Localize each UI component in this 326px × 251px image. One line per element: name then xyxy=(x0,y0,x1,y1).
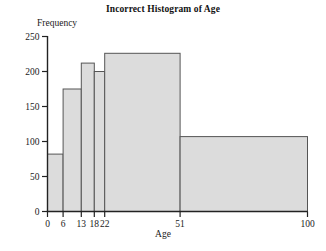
x-tick-label: 51 xyxy=(175,219,185,229)
y-tick-label: 150 xyxy=(25,102,40,112)
x-tick-label: 0 xyxy=(45,219,50,229)
x-tick-group: 0613182251100 xyxy=(45,212,315,229)
x-tick-label: 100 xyxy=(300,219,315,229)
y-tick-group: 050100150200250 xyxy=(25,32,47,217)
histogram-bar xyxy=(48,154,64,211)
y-tick-label: 200 xyxy=(25,67,40,77)
histogram-bar xyxy=(105,53,180,211)
histogram-bar xyxy=(180,137,307,212)
x-axis-label: Age xyxy=(0,229,326,239)
y-tick-label: 100 xyxy=(25,137,40,147)
histogram-figure: Incorrect Histogram of Age Frequency 050… xyxy=(0,0,326,251)
x-tick-label: 18 xyxy=(90,219,100,229)
x-tick-label: 6 xyxy=(61,219,66,229)
y-tick-label: 0 xyxy=(35,207,40,217)
histogram-bar xyxy=(63,89,81,212)
plot-area: 050100150200250 0613182251100 xyxy=(0,0,326,251)
histogram-bar xyxy=(81,63,94,211)
y-tick-label: 250 xyxy=(25,32,40,42)
bars-group xyxy=(48,53,308,211)
x-tick-label: 22 xyxy=(100,219,110,229)
y-tick-label: 50 xyxy=(30,172,40,182)
x-tick-label: 13 xyxy=(77,219,87,229)
histogram-bar xyxy=(94,72,104,212)
